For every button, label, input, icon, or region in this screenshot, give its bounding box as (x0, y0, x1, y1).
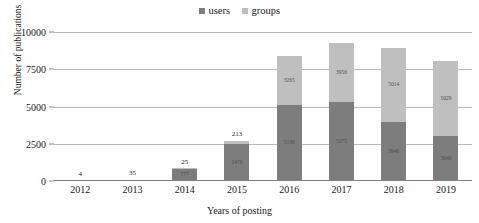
bar-group-2012[interactable]: 4 (54, 32, 106, 181)
bar-value-label-users: 3946 (388, 149, 399, 155)
bar-stack[interactable]: 2476 (224, 141, 249, 181)
bar-total-label: 25 (181, 159, 188, 166)
bar-segment-groups[interactable]: 3265 (277, 56, 302, 105)
bar-segment-groups[interactable]: 3956 (329, 43, 354, 102)
legend-item-users: users (199, 6, 230, 17)
bar-segment-users[interactable]: 3040 (433, 136, 458, 181)
legend-label-groups: groups (252, 6, 281, 17)
y-tick-label: 2500 (0, 138, 46, 149)
bar-group-2016[interactable]: 32655130 (263, 32, 315, 181)
x-axis-title: Years of posting (0, 205, 479, 216)
bar-segment-groups[interactable]: 5029 (433, 61, 458, 136)
bar-segment-users[interactable]: 2476 (224, 144, 249, 181)
bar-value-label-groups: 3265 (284, 78, 295, 84)
y-tick-label: 7500 (0, 64, 46, 75)
bar-group-2014[interactable]: 25777 (159, 32, 211, 181)
x-axis-ticks: 20122013201420152016201720182019 (54, 185, 472, 195)
bar-group-2018[interactable]: 50143946 (368, 32, 420, 181)
plot-area: 025005000750010000 435257772132476326551… (54, 32, 472, 181)
bar-total-label: 213 (232, 131, 243, 138)
bar-value-label-users: 5130 (284, 140, 295, 146)
bar-value-label-groups: 3956 (336, 70, 347, 76)
bar-value-label-users: 3040 (440, 156, 451, 162)
bar-value-label-groups: 5014 (388, 82, 399, 88)
y-tick-label: 10000 (0, 27, 46, 38)
bar-stack[interactable]: 50143946 (381, 48, 406, 181)
bar-stack[interactable]: 39565275 (329, 43, 354, 181)
legend-swatch-users (199, 8, 205, 14)
bar-segment-groups[interactable]: 5014 (381, 48, 406, 123)
bar-stack[interactable]: 50293040 (433, 61, 458, 181)
bar-value-label-users: 5275 (336, 139, 347, 145)
bar-segment-users[interactable]: 3946 (381, 122, 406, 181)
x-tick-label-2015: 2015 (211, 185, 263, 195)
bar-value-label-groups: 5029 (440, 96, 451, 102)
bar-series-container: 4352577721324763265513039565275501439465… (54, 32, 472, 181)
bar-segment-users[interactable]: 5130 (277, 105, 302, 181)
bar-group-2017[interactable]: 39565275 (315, 32, 367, 181)
chart-legend: users groups (0, 6, 479, 17)
bar-group-2015[interactable]: 2132476 (211, 32, 263, 181)
x-axis-line (54, 180, 472, 181)
bar-segment-users[interactable]: 5275 (329, 102, 354, 181)
bar-group-2013[interactable]: 35 (106, 32, 158, 181)
bar-value-label-users: 777 (181, 172, 189, 178)
bar-total-label: 35 (129, 170, 136, 177)
stacked-bar-chart: users groups Number of publications 0250… (0, 0, 479, 223)
x-tick-label-2014: 2014 (159, 185, 211, 195)
x-tick-label-2017: 2017 (315, 185, 367, 195)
y-axis-title: Number of publications (13, 0, 23, 115)
legend-item-groups: groups (242, 6, 280, 17)
bar-stack[interactable]: 32655130 (277, 56, 302, 181)
x-tick-label-2018: 2018 (368, 185, 420, 195)
bar-group-2019[interactable]: 50293040 (420, 32, 472, 181)
y-tick-label: 0 (0, 176, 46, 187)
bar-value-label-users: 2476 (231, 160, 242, 166)
bar-total-label: 4 (78, 171, 82, 178)
legend-label-users: users (208, 6, 230, 17)
x-tick-label-2012: 2012 (54, 185, 106, 195)
x-tick-label-2019: 2019 (420, 185, 472, 195)
x-tick-label-2016: 2016 (263, 185, 315, 195)
y-tick-label: 5000 (0, 101, 46, 112)
legend-swatch-groups (242, 8, 248, 14)
x-tick-label-2013: 2013 (106, 185, 158, 195)
